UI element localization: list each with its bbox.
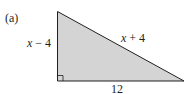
hypotenuse-label: x + 4 [120,31,145,45]
horizontal-leg-label: 12 [111,82,123,94]
right-triangle [58,12,185,82]
triangle-diagram: (a) x − 4 x + 4 12 [0,0,191,94]
vertical-leg-label: x − 4 [26,36,51,50]
part-label: (a) [5,11,18,25]
